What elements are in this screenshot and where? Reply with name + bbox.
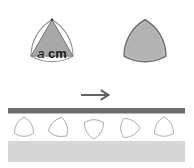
plank-bar <box>8 108 185 114</box>
figure-canvas: a cm <box>0 0 194 168</box>
reuleaux-filled-right <box>124 20 166 62</box>
reuleaux-triangle-figure: a cm <box>0 0 194 168</box>
arrow-right-icon <box>81 91 109 100</box>
side-length-label: a cm <box>37 46 67 61</box>
apex-dot <box>51 18 54 21</box>
right-shape-group <box>124 20 166 62</box>
roller-fills <box>15 116 174 143</box>
side-length-variable: a <box>37 46 44 61</box>
ground-band <box>8 141 185 162</box>
side-length-unit: cm <box>48 46 67 61</box>
